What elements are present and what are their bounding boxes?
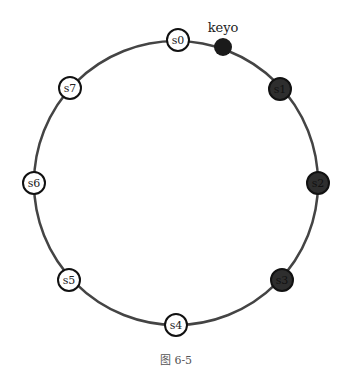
- server-node-s3: s3: [271, 269, 293, 291]
- hash-ring-diagram: s0s1s2s3s4s5s6s7 keyo: [0, 0, 350, 380]
- server-node-s5: s5: [58, 269, 80, 291]
- server-node-label: s5: [63, 274, 76, 287]
- server-node-s6: s6: [23, 172, 45, 194]
- server-node-label: s2: [312, 177, 325, 190]
- server-node-s7: s7: [59, 77, 81, 99]
- server-node-s4: s4: [165, 314, 187, 336]
- server-node-label: s7: [64, 82, 77, 95]
- server-node-s2: s2: [307, 172, 329, 194]
- server-node-label: s6: [28, 177, 41, 190]
- server-node-label: s4: [170, 319, 183, 332]
- server-node-label: s0: [172, 34, 185, 47]
- server-node-s0: s0: [167, 29, 189, 51]
- server-node-label: s1: [274, 83, 287, 96]
- key-label: keyo: [208, 20, 239, 35]
- key-dot: [214, 38, 232, 56]
- key-node: keyo: [208, 20, 239, 56]
- server-node-s1: s1: [269, 78, 291, 100]
- server-node-label: s3: [276, 274, 289, 287]
- figure-caption: 图 6-5: [0, 351, 350, 367]
